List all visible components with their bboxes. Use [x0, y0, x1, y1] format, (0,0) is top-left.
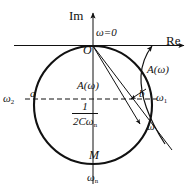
- omega-1-label: ω1: [156, 92, 167, 104]
- point-m-label: M: [89, 149, 99, 161]
- nyquist-diagram-figure: Im Re ω=0 O A(ω) A(ω) a b ω1 ω2 ω M ωn 1…: [0, 0, 190, 191]
- amplitude-radius-label: A(ω): [77, 80, 99, 91]
- fraction-denominator-omega: ω: [86, 115, 94, 127]
- fraction-numerator: 1: [72, 101, 98, 112]
- amplitude-curve-label: A(ω): [147, 64, 169, 75]
- diameter-fraction: 1 2Cωn: [72, 101, 98, 128]
- omega-label: ω: [147, 121, 155, 132]
- omega-1-symbol: ω: [156, 91, 164, 103]
- omega-n-label: ωn: [87, 172, 98, 184]
- omega-2-symbol: ω: [3, 92, 11, 104]
- origin-label: O: [83, 44, 92, 56]
- omega-n-symbol: ω: [87, 171, 95, 183]
- radius-vector: [93, 46, 140, 124]
- fraction-denominator: 2Cωn: [72, 115, 98, 128]
- omega-n-subscript: n: [95, 177, 98, 184]
- omega-1-subscript: 1: [164, 97, 167, 104]
- point-a-label: a: [30, 88, 36, 99]
- fraction-bar: [72, 113, 98, 114]
- omega-2-subscript: 2: [11, 98, 14, 105]
- real-axis-label: Re: [166, 34, 180, 47]
- point-b-label: b: [139, 88, 145, 99]
- imaginary-axis-label: Im: [69, 9, 83, 22]
- fraction-denominator-subscript: n: [94, 121, 97, 128]
- omega-zero-label: ω=0: [96, 27, 117, 38]
- omega-2-label: ω2: [3, 93, 14, 105]
- fraction-denominator-coeff: 2C: [73, 115, 86, 127]
